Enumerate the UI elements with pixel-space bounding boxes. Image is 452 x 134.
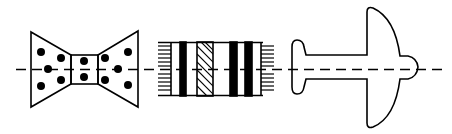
airplane-shape <box>292 8 418 128</box>
diagram-canvas <box>0 0 452 134</box>
striped-rectangle <box>158 38 274 104</box>
